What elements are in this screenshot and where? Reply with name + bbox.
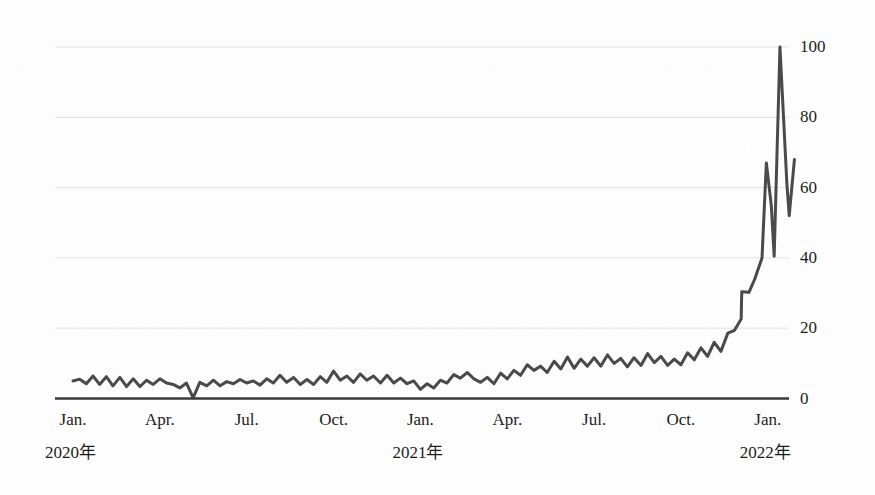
y-tick-label: 60 <box>800 178 817 198</box>
series-polyline <box>73 47 794 398</box>
chart-figure: 020406080100 Jan.Apr.Jul.Oct.Jan.Apr.Jul… <box>0 0 875 495</box>
x-tick-label: Apr. <box>145 410 175 430</box>
gridlines-group <box>55 47 789 328</box>
x-year-label: 2021年 <box>392 438 443 463</box>
y-tick-label: 40 <box>800 248 817 268</box>
chart-canvas <box>0 0 875 495</box>
x-tick-label: Apr. <box>492 410 522 430</box>
x-tick-label: Jul. <box>582 410 606 430</box>
x-tick-label: Jul. <box>235 410 259 430</box>
x-year-label: 2020年 <box>45 438 96 463</box>
x-tick-label: Jan. <box>754 410 781 430</box>
y-tick-label: 100 <box>800 37 826 57</box>
y-tick-label: 0 <box>800 389 809 409</box>
x-tick-label: Oct. <box>319 410 348 430</box>
x-tick-label: Jan. <box>60 410 87 430</box>
y-tick-label: 80 <box>800 107 817 127</box>
x-tick-label: Oct. <box>667 410 696 430</box>
x-year-label: 2022年 <box>740 438 791 463</box>
y-tick-label: 20 <box>800 318 817 338</box>
x-tick-label: Jan. <box>407 410 434 430</box>
data-series-line <box>73 47 794 398</box>
